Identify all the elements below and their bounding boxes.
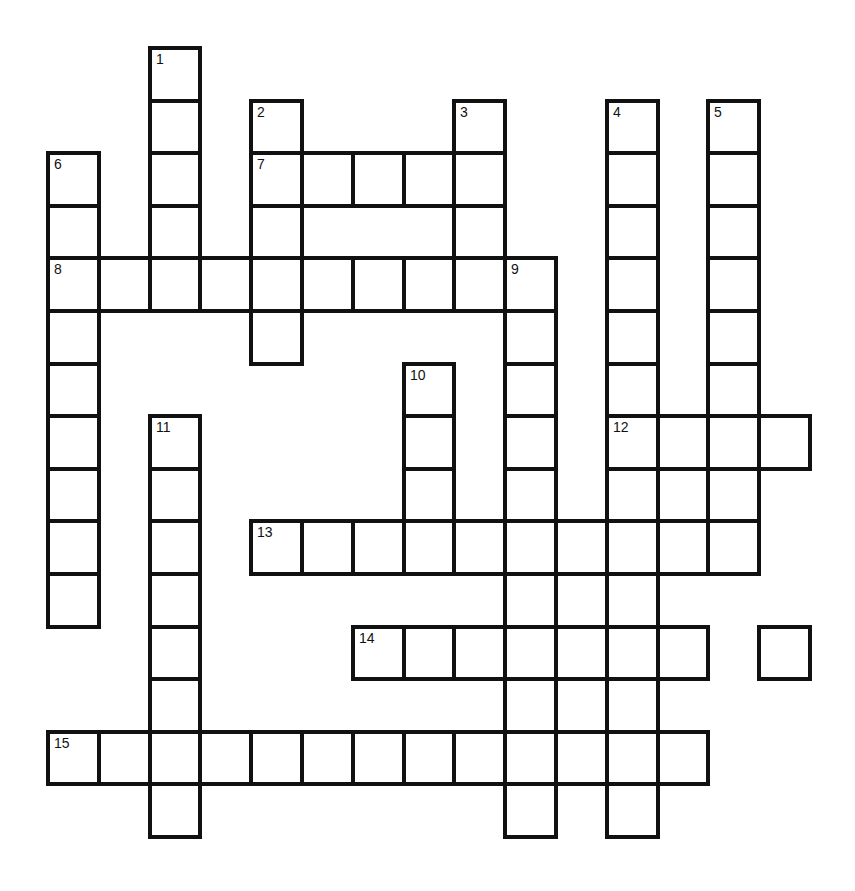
crossword-cell[interactable] <box>706 362 761 418</box>
crossword-cell[interactable]: 6 <box>46 151 101 208</box>
crossword-cell[interactable] <box>148 625 202 681</box>
crossword-cell[interactable] <box>148 730 202 786</box>
crossword-cell[interactable] <box>148 151 202 208</box>
crossword-cell[interactable] <box>452 256 507 313</box>
crossword-cell[interactable] <box>351 730 406 786</box>
crossword-cell[interactable] <box>706 467 761 523</box>
crossword-cell[interactable] <box>351 151 406 208</box>
crossword-cell[interactable] <box>198 256 253 313</box>
crossword-cell[interactable] <box>300 730 355 786</box>
crossword-cell[interactable] <box>148 256 202 313</box>
crossword-cell[interactable] <box>402 414 456 471</box>
crossword-cell[interactable] <box>554 519 609 576</box>
crossword-cell[interactable] <box>46 572 101 629</box>
crossword-cell[interactable]: 13 <box>249 519 304 576</box>
crossword-cell[interactable] <box>605 677 660 734</box>
crossword-cell[interactable] <box>148 467 202 523</box>
crossword-cell[interactable] <box>706 309 761 366</box>
crossword-cell[interactable] <box>503 362 558 418</box>
crossword-cell[interactable] <box>503 625 558 681</box>
crossword-cell[interactable] <box>148 204 202 260</box>
crossword-cell[interactable] <box>706 519 761 576</box>
crossword-cell[interactable] <box>605 362 660 418</box>
crossword-cell[interactable] <box>605 519 660 576</box>
crossword-cell[interactable] <box>605 256 660 313</box>
crossword-cell[interactable] <box>605 782 660 839</box>
crossword-cell[interactable] <box>605 572 660 629</box>
crossword-cell[interactable]: 15 <box>46 730 101 786</box>
crossword-cell[interactable] <box>148 99 202 155</box>
crossword-cell[interactable] <box>148 572 202 629</box>
crossword-cell[interactable]: 9 <box>503 256 558 313</box>
crossword-cell[interactable] <box>46 467 101 523</box>
crossword-cell[interactable] <box>198 730 253 786</box>
crossword-cell[interactable] <box>605 204 660 260</box>
crossword-cell[interactable] <box>656 414 710 471</box>
crossword-cell[interactable] <box>97 256 152 313</box>
crossword-cell[interactable] <box>452 204 507 260</box>
crossword-cell[interactable] <box>605 730 660 786</box>
crossword-cell[interactable] <box>452 625 507 681</box>
crossword-cell[interactable]: 1 <box>148 46 202 103</box>
crossword-cell[interactable] <box>706 414 761 471</box>
crossword-cell[interactable]: 10 <box>402 362 456 418</box>
crossword-cell[interactable]: 3 <box>452 99 507 155</box>
crossword-cell[interactable] <box>605 309 660 366</box>
crossword-cell[interactable] <box>452 151 507 208</box>
crossword-cell[interactable] <box>503 730 558 786</box>
crossword-cell[interactable] <box>503 414 558 471</box>
crossword-cell[interactable] <box>503 519 558 576</box>
crossword-cell[interactable] <box>452 730 507 786</box>
crossword-cell[interactable] <box>249 256 304 313</box>
crossword-cell[interactable] <box>46 204 101 260</box>
crossword-cell[interactable]: 2 <box>249 99 304 155</box>
crossword-cell[interactable] <box>402 625 456 681</box>
crossword-cell[interactable] <box>757 414 812 471</box>
crossword-cell[interactable] <box>46 414 101 471</box>
crossword-cell[interactable]: 4 <box>605 99 660 155</box>
crossword-cell[interactable]: 8 <box>46 256 101 313</box>
crossword-cell[interactable] <box>452 519 507 576</box>
crossword-cell[interactable] <box>402 256 456 313</box>
crossword-cell[interactable] <box>351 519 406 576</box>
crossword-cell[interactable] <box>706 256 761 313</box>
crossword-cell[interactable] <box>46 519 101 576</box>
crossword-cell[interactable] <box>249 730 304 786</box>
crossword-cell[interactable] <box>148 677 202 734</box>
crossword-cell[interactable] <box>249 309 304 366</box>
crossword-cell[interactable] <box>402 519 456 576</box>
crossword-cell[interactable] <box>706 151 761 208</box>
crossword-cell[interactable] <box>46 309 101 366</box>
crossword-cell[interactable] <box>554 730 609 786</box>
crossword-cell[interactable] <box>300 151 355 208</box>
crossword-cell[interactable] <box>656 519 710 576</box>
crossword-cell[interactable] <box>554 677 609 734</box>
crossword-cell[interactable] <box>503 467 558 523</box>
crossword-cell[interactable] <box>605 467 660 523</box>
crossword-cell[interactable] <box>706 204 761 260</box>
crossword-cell[interactable] <box>656 625 710 681</box>
crossword-cell[interactable] <box>503 677 558 734</box>
crossword-cell[interactable]: 12 <box>605 414 660 471</box>
crossword-cell[interactable]: 7 <box>249 151 304 208</box>
crossword-cell[interactable] <box>351 256 406 313</box>
crossword-cell[interactable]: 5 <box>706 99 761 155</box>
crossword-cell[interactable] <box>300 256 355 313</box>
crossword-cell[interactable] <box>554 572 609 629</box>
crossword-cell[interactable] <box>148 519 202 576</box>
crossword-cell[interactable] <box>300 519 355 576</box>
crossword-cell[interactable] <box>554 625 609 681</box>
crossword-cell[interactable] <box>757 625 812 681</box>
crossword-cell[interactable] <box>605 625 660 681</box>
crossword-cell[interactable] <box>503 572 558 629</box>
crossword-cell[interactable]: 14 <box>351 625 406 681</box>
crossword-cell[interactable] <box>656 730 710 786</box>
crossword-cell[interactable] <box>148 782 202 839</box>
crossword-cell[interactable] <box>605 151 660 208</box>
crossword-cell[interactable] <box>97 730 152 786</box>
crossword-cell[interactable] <box>402 151 456 208</box>
crossword-cell[interactable]: 11 <box>148 414 202 471</box>
crossword-cell[interactable] <box>503 782 558 839</box>
crossword-cell[interactable] <box>402 467 456 523</box>
crossword-cell[interactable] <box>656 467 710 523</box>
